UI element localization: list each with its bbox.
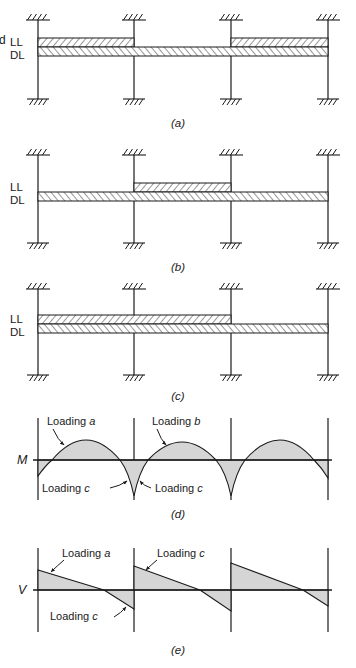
frame-c-dead-load-band [38, 324, 328, 333]
moment-diagram: M Loadinga Loadingb Loadingc Loadingc (d… [17, 415, 332, 520]
shear-annotation-loading-a: Loadinga [62, 547, 110, 559]
shear-span-2 [134, 566, 231, 611]
frame-b-ll-label: LL [10, 181, 23, 193]
shear-leader-loading-a [51, 560, 64, 572]
moment-leader-loading-b [157, 429, 166, 445]
shear-annotation-loading-c-bottom: Loadingc [50, 610, 98, 622]
frame-b-top-supports [26, 149, 340, 155]
moment-diagram-caption: (d) [171, 508, 185, 520]
frame-a-columns [38, 20, 328, 99]
frame-c-bottom-supports [27, 375, 339, 381]
moment-leader-loading-a [53, 429, 64, 445]
frame-b-dl-label: DL [10, 194, 25, 206]
shear-diagram: V Loadinga Loadingc Loadingc (e) [18, 547, 332, 656]
frame-b-bottom-supports [27, 243, 339, 249]
frame-c-top-supports [26, 283, 340, 289]
shear-axis-label: V [18, 583, 28, 597]
frame-a-ll-label: LL [10, 36, 23, 48]
frame-a-bottom-supports [27, 99, 339, 105]
shear-leader-loading-c-top [146, 560, 157, 570]
shear-leader-loading-c-bottom [114, 607, 126, 617]
shear-diagram-caption: (e) [171, 644, 185, 656]
moment-leader-loading-c-right [140, 481, 151, 488]
moment-annotation-loading-c-left: Loadingc [42, 482, 90, 494]
shear-span-3 [231, 563, 328, 606]
moment-annotation-loading-b: Loadingb [152, 415, 200, 427]
moment-axis-label: M [17, 453, 28, 467]
shear-annotation-loading-c-top: Loadingc [157, 547, 205, 559]
frame-b: LL DL (b) [10, 149, 340, 273]
frame-a-caption: (a) [171, 117, 185, 129]
figure-svg: d LL DL [0, 0, 356, 668]
frame-a: LL DL (a) [10, 14, 340, 129]
frame-a-dead-load-band [38, 47, 328, 56]
frame-c: LL DL (c) [10, 283, 340, 402]
moment-leader-loading-c-left [110, 481, 127, 488]
moment-annotation-loading-c-right: Loadingc [155, 482, 203, 494]
frame-b-caption: (b) [171, 261, 185, 273]
moment-annotation-loading-a: Loadinga [47, 415, 95, 427]
frame-c-ll-label: LL [10, 313, 23, 325]
frame-a-live-load-band [38, 38, 328, 47]
frame-b-dead-load-band [38, 192, 328, 201]
frame-b-live-load-band [134, 183, 231, 192]
frame-a-dl-label: DL [10, 49, 25, 61]
clipped-edge-character: d [0, 33, 6, 47]
frame-c-caption: (c) [171, 390, 185, 402]
frame-c-dl-label: DL [10, 326, 25, 338]
frame-c-live-load-band [38, 315, 231, 324]
frame-a-top-supports [26, 14, 340, 20]
structural-loading-figure: d LL DL [0, 0, 356, 668]
moment-positive-regions [52, 440, 314, 460]
